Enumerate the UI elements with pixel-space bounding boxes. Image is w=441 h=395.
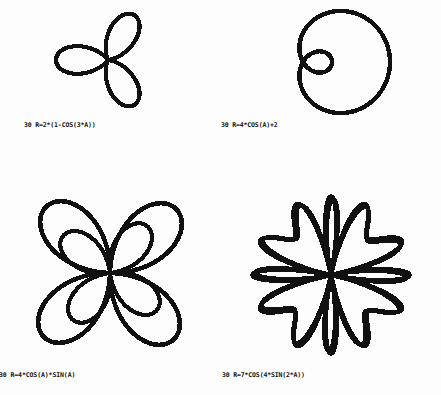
polar-curve-svg-bottom-left — [0, 165, 220, 390]
polar-curve-svg-top-right — [221, 0, 441, 140]
caption-three-petal-rose: 30 R=2*(1-COS(3*A)) — [24, 121, 96, 130]
caption-limacon: 30 R=4*COS(A)+2 — [221, 121, 277, 130]
caption-four-petal-rose: 30 R=4*COS(A)*SIN(A) — [0, 371, 75, 380]
plot-sheet: 30 R=2*(1-COS(3*A)) 30 R=4*COS(A)+2 30 R… — [0, 0, 441, 395]
caption-eight-point-star: 30 R=7*COS(4*SIN(2*A)) — [222, 371, 305, 380]
polar-curve-svg-top-left — [0, 0, 220, 140]
polar-plot-bottom-right — [221, 175, 441, 390]
polar-curve-svg-bottom-right — [221, 175, 441, 390]
figure-four-petal-rose — [0, 165, 220, 390]
polar-plot-bottom-left — [0, 165, 220, 390]
figure-three-petal-rose — [0, 0, 220, 140]
figure-eight-point-star — [221, 175, 441, 390]
polar-plot-top-left — [0, 0, 220, 140]
polar-plot-top-right — [221, 0, 441, 140]
figure-limacon — [221, 0, 441, 140]
